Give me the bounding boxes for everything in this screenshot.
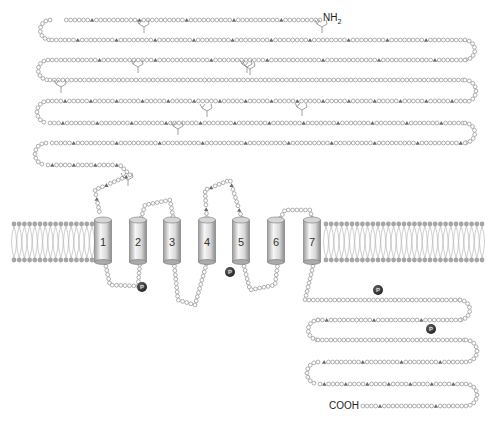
svg-text:7: 7 [309, 236, 315, 248]
transmembrane-helices: 1234567 [95, 217, 321, 265]
svg-text:1: 1 [100, 236, 106, 248]
glycosylation-tree-icon [243, 62, 255, 75]
helix-5: 5 [233, 217, 250, 265]
phosphate-icon: P [373, 285, 383, 295]
svg-text:5: 5 [238, 236, 244, 248]
svg-text:6: 6 [273, 236, 279, 248]
helix-1: 1 [95, 217, 112, 265]
c-terminus-label: COOH [329, 400, 359, 411]
amino-acid-chain [33, 18, 479, 408]
glycosylation-tree-icon [200, 104, 212, 117]
helix-3: 3 [164, 217, 181, 265]
svg-text:P: P [376, 287, 380, 293]
svg-text:P: P [429, 326, 433, 332]
glycosylation-tree-icon [54, 80, 66, 93]
phosphate-icon: P [426, 324, 436, 334]
glycosylation-tree-icon [295, 103, 307, 116]
svg-text:P: P [228, 269, 232, 275]
svg-text:P: P [140, 284, 144, 290]
n-terminus-label: NH2 [323, 12, 341, 25]
helix-2: 2 [130, 217, 147, 265]
receptor-topology-diagram: 1234567 PPPP NH2 COOH [0, 0, 495, 422]
svg-text:2: 2 [135, 236, 141, 248]
svg-text:3: 3 [169, 236, 175, 248]
helix-6: 6 [268, 217, 285, 265]
phosphate-icon: P [137, 282, 147, 292]
svg-text:4: 4 [204, 236, 210, 248]
helix-7: 7 [304, 217, 321, 265]
helix-4: 4 [199, 217, 216, 265]
phosphate-icon: P [225, 267, 235, 277]
